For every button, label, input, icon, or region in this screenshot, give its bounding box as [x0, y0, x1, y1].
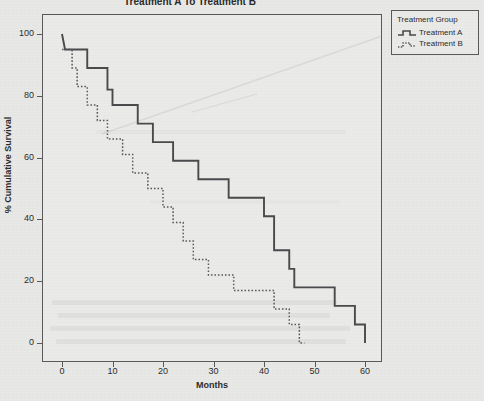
y-tick-mark [37, 281, 42, 282]
legend-item-treatment-b[interactable]: Treatment B [397, 38, 474, 49]
chart-legend: Treatment Group Treatment A Treatment B [391, 10, 479, 55]
y-tick-label: 0 [4, 337, 34, 347]
x-tick-label: 50 [300, 366, 330, 376]
chart-page: Treatment A To Treatment B % Cumulative … [0, 0, 484, 401]
series-curves [42, 14, 382, 362]
x-tick-label: 30 [199, 366, 229, 376]
y-tick-label: 60 [4, 152, 34, 162]
legend-label: Treatment A [419, 28, 462, 37]
x-tick-label: 60 [350, 366, 380, 376]
x-tick-label: 0 [47, 366, 77, 376]
legend-label: Treatment B [419, 39, 463, 48]
plot-area [42, 14, 382, 362]
y-tick-label: 80 [4, 90, 34, 100]
y-tick-mark [37, 34, 42, 35]
y-axis-label: % Cumulative Survival [3, 75, 13, 255]
x-axis-label: Months [42, 380, 382, 390]
y-tick-label: 100 [4, 28, 34, 38]
solid-step-line-icon [397, 28, 417, 38]
dotted-step-line-icon [397, 39, 417, 49]
x-tick-label: 10 [98, 366, 128, 376]
y-tick-mark [37, 219, 42, 220]
series-line-treatment-b [62, 49, 304, 343]
series-line-treatment-a [62, 34, 365, 343]
x-tick-label: 40 [249, 366, 279, 376]
y-tick-mark [37, 343, 42, 344]
y-tick-label: 40 [4, 213, 34, 223]
y-tick-mark [37, 158, 42, 159]
legend-title: Treatment Group [397, 15, 474, 24]
chart-title: Treatment A To Treatment B [60, 0, 320, 8]
legend-item-treatment-a[interactable]: Treatment A [397, 27, 474, 38]
y-tick-mark [37, 96, 42, 97]
y-tick-label: 20 [4, 275, 34, 285]
x-tick-label: 20 [148, 366, 178, 376]
